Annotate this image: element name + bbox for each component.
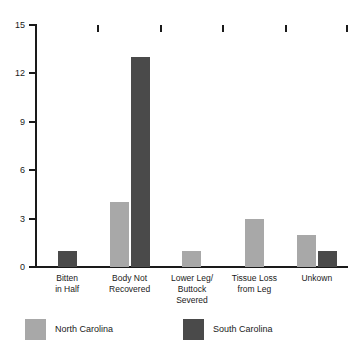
category-label-line: from Leg [223,284,285,295]
y-axis-tick-label: 12 [15,69,25,78]
legend-swatch [25,319,46,340]
category-label-line: Buttock [161,284,223,295]
bar-group [36,25,98,267]
bar-south-carolina [131,57,150,267]
legend-label: South Carolina [213,325,273,334]
bar-north-carolina [245,219,264,267]
category-label-line: Recovered [98,284,160,295]
y-axis-tick: 0 [29,266,36,268]
y-axis-tick-label: 3 [20,214,25,223]
category-label: Lower Leg/ButtockSevered [161,273,223,306]
y-axis-tick: 9 [29,121,36,123]
category-label: Tissue Lossfrom Leg [223,273,285,295]
bar-group [223,25,285,267]
plot-area: 15129630 [36,25,348,267]
category-label: Bittenin Half [36,273,98,295]
category-label-line: Bitten [36,273,98,284]
category-label-line: Body Not [98,273,160,284]
bar-chart: 15129630 Bittenin HalfBody NotRecoveredL… [0,0,359,356]
legend-label: North Carolina [55,325,113,334]
bar-south-carolina [318,251,337,267]
y-axis-tick: 15 [29,24,36,26]
bar-group [98,25,160,267]
bar-group [286,25,348,267]
chart-legend: North CarolinaSouth Carolina [25,319,273,340]
y-axis-tick: 6 [29,169,36,171]
category-label-line: Unkown [286,273,348,284]
legend-swatch [183,319,204,340]
y-axis-tick-label: 6 [20,166,25,175]
category-label-line: Lower Leg/ [161,273,223,284]
category-label: Unkown [286,273,348,284]
category-label-line: Tissue Loss [223,273,285,284]
bar-group [161,25,223,267]
y-axis-tick: 12 [29,72,36,74]
bar-north-carolina [110,202,129,267]
legend-item: North Carolina [25,319,113,340]
bar-south-carolina [58,251,77,267]
y-axis-tick-label: 0 [20,263,25,272]
legend-item: South Carolina [183,319,273,340]
y-axis-tick-label: 15 [15,21,25,30]
category-label-line: in Half [36,284,98,295]
bar-north-carolina [297,235,316,267]
category-label: Body NotRecovered [98,273,160,295]
y-axis-tick: 3 [29,218,36,220]
category-label-line: Severed [161,295,223,306]
y-axis-tick-label: 9 [20,117,25,126]
bar-north-carolina [182,251,201,267]
